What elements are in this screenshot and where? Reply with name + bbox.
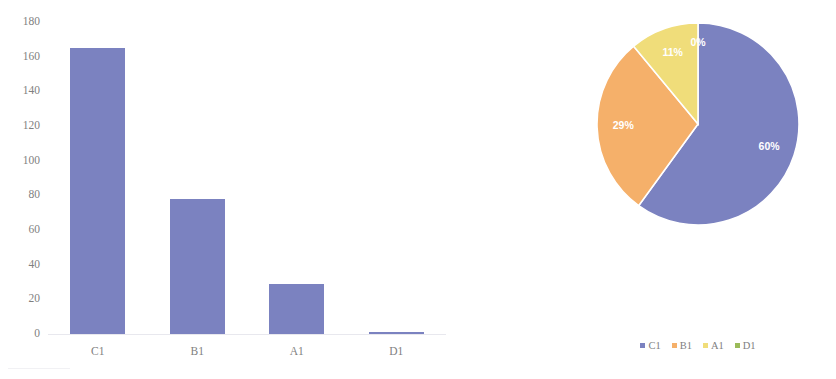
legend-swatch-icon <box>735 343 740 348</box>
y-axis-tick-label: 100 <box>23 155 40 167</box>
legend-label: D1 <box>743 340 756 351</box>
bar-plot-area: 180160140120100806040200 C1B1A1D1 <box>48 22 446 334</box>
y-axis-tick-label: 0 <box>34 328 40 340</box>
x-axis-tick-label: C1 <box>91 345 104 357</box>
pie-legend: C1B1A1D1 <box>560 340 836 351</box>
legend-swatch-icon <box>672 343 677 348</box>
y-axis-tick-label: 180 <box>23 16 40 28</box>
bar-chart-bottom-rule <box>8 368 70 369</box>
bar-series: C1B1A1D1 <box>48 22 446 334</box>
charts-canvas: 180160140120100806040200 C1B1A1D1 60%29%… <box>0 0 836 379</box>
pie-chart: 60%29%11%0% C1B1A1D1 <box>560 0 836 379</box>
bar-c1[interactable] <box>70 48 125 334</box>
x-axis-tick-label: A1 <box>290 345 304 357</box>
legend-label: C1 <box>648 340 660 351</box>
y-axis-tick-label: 120 <box>23 120 40 132</box>
pie-data-label-a1: 11% <box>662 46 683 58</box>
pie-plot-area: 60%29%11%0% <box>596 22 800 226</box>
bar-group[interactable]: C1 <box>48 22 148 334</box>
y-axis-tick-label: 80 <box>29 190 41 202</box>
bar-b1[interactable] <box>170 199 225 334</box>
legend-swatch-icon <box>640 343 645 348</box>
legend-item-c1[interactable]: C1 <box>640 340 660 351</box>
pie-svg: 60%29%11%0% <box>596 22 800 226</box>
y-axis-tick-label: 160 <box>23 51 40 63</box>
y-axis-tick-label: 20 <box>29 294 41 306</box>
bar-a1[interactable] <box>269 284 324 334</box>
y-axis-tick-label: 140 <box>23 86 40 98</box>
x-axis-tick-label: B1 <box>191 345 204 357</box>
bar-chart: 180160140120100806040200 C1B1A1D1 <box>0 0 460 379</box>
bar-group[interactable]: B1 <box>148 22 248 334</box>
y-axis-tick-label: 60 <box>29 224 41 236</box>
y-axis-tick-label: 40 <box>29 259 41 271</box>
bar-group[interactable]: D1 <box>347 22 447 334</box>
bar-group[interactable]: A1 <box>247 22 347 334</box>
pie-data-label-b1: 29% <box>613 119 635 131</box>
legend-item-a1[interactable]: A1 <box>703 340 724 351</box>
legend-item-b1[interactable]: B1 <box>672 340 692 351</box>
x-axis-tick-label: D1 <box>389 345 403 357</box>
legend-item-d1[interactable]: D1 <box>735 340 756 351</box>
legend-label: A1 <box>711 340 724 351</box>
legend-label: B1 <box>680 340 692 351</box>
bar-baseline-axis <box>48 334 446 335</box>
pie-data-label-d1: 0% <box>690 36 706 48</box>
legend-swatch-icon <box>703 343 708 348</box>
pie-data-label-c1: 60% <box>759 140 781 152</box>
